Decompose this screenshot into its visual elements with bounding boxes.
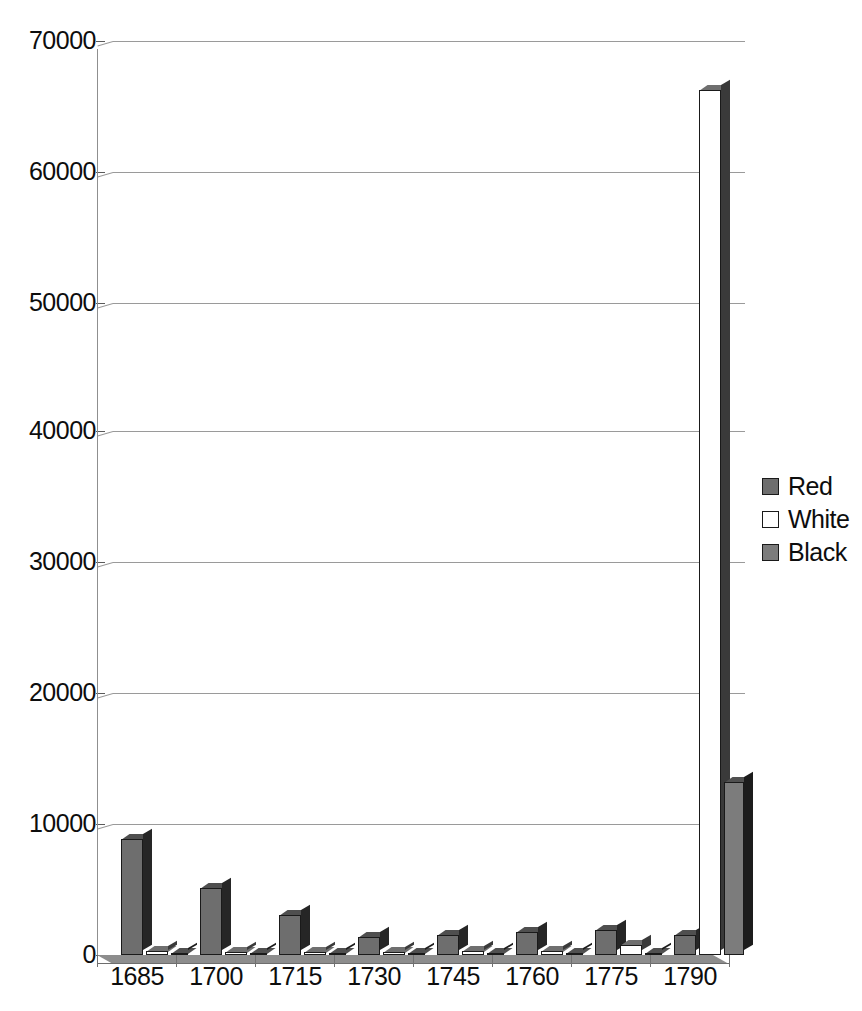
- bar-white-1685: [146, 951, 168, 955]
- bar-white-1775: [620, 945, 642, 955]
- legend-label-black: Black: [788, 540, 847, 565]
- y-axis-tick-label: 10000: [0, 811, 96, 836]
- legend-swatch-icon: [762, 544, 779, 561]
- bar-red-1745: [437, 935, 459, 955]
- x-axis-label-1745: 1745: [408, 962, 498, 990]
- bar-red-1775: [595, 930, 617, 955]
- bar-red-1790: [674, 935, 696, 955]
- bar-black-1700: [250, 953, 267, 955]
- bar-white-1760: [541, 951, 563, 955]
- x-axis-label-1700: 1700: [171, 962, 261, 990]
- bar-group-1760: [508, 41, 587, 955]
- bar-black-1730: [408, 953, 425, 955]
- bar-group-1715: [271, 41, 350, 955]
- legend-label-white: White: [788, 507, 849, 532]
- bar-black-1745: [487, 953, 504, 955]
- bar-black-1715: [329, 953, 346, 955]
- bar-white-1730: [383, 952, 405, 955]
- bar-white-1715: [304, 952, 326, 955]
- y-axis-tick-label: 30000: [0, 549, 96, 574]
- legend-item-red: Red: [762, 470, 862, 503]
- legend-label-red: Red: [788, 474, 832, 499]
- x-axis-label-1685: 1685: [92, 962, 182, 990]
- bar-group-1775: [587, 41, 666, 955]
- bar-red-1700: [200, 888, 222, 955]
- y-axis-tick-label: 50000: [0, 290, 96, 315]
- x-axis-label-1715: 1715: [250, 962, 340, 990]
- y-axis-tick-label: 20000: [0, 680, 96, 705]
- y-axis-tick-label: 0: [0, 942, 96, 967]
- bar-group-1745: [429, 41, 508, 955]
- bar-group-1730: [350, 41, 429, 955]
- bar-group-1700: [192, 41, 271, 955]
- x-axis-label-1775: 1775: [566, 962, 656, 990]
- y-axis-line: [97, 49, 98, 963]
- bar-black-1790: [724, 782, 744, 955]
- bar-red-1685: [121, 839, 143, 955]
- legend-swatch-icon: [762, 511, 779, 528]
- x-axis-label-1790: 1790: [645, 962, 735, 990]
- x-axis-label-1730: 1730: [329, 962, 419, 990]
- bar-black-1775: [645, 953, 662, 955]
- x-axis-label-1760: 1760: [487, 962, 577, 990]
- bar-black-1685: [171, 953, 188, 955]
- bar-white-1700: [225, 952, 247, 955]
- bar-white-1790: [699, 90, 721, 955]
- legend-item-white: White: [762, 503, 862, 536]
- plot-area: [113, 41, 745, 955]
- bar-group-1685: [113, 41, 192, 955]
- legend-item-black: Black: [762, 536, 862, 569]
- bar-group-1790: [666, 41, 745, 955]
- bar-red-1715: [279, 915, 301, 955]
- bar-white-1745: [462, 951, 484, 955]
- bar-red-1730: [358, 937, 380, 955]
- y-axis-tick-mark: [96, 41, 105, 42]
- y-axis-tick-label: 60000: [0, 159, 96, 184]
- y-axis-tick-label: 40000: [0, 418, 96, 443]
- legend-swatch-icon: [762, 478, 779, 495]
- bar-red-1760: [516, 932, 538, 955]
- bar-chart: 70000 60000 50000 40000 30000 20000 1000…: [0, 0, 862, 1011]
- bar-black-1760: [566, 953, 583, 955]
- y-axis-tick-label: 70000: [0, 28, 96, 53]
- chart-legend: Red White Black: [762, 470, 862, 569]
